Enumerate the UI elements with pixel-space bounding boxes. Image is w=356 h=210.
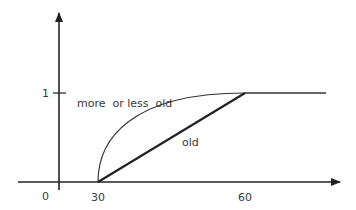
origin-label: 0 <box>42 190 49 203</box>
membership-function-chart: 1 0 30 60 more or less old old <box>0 0 356 210</box>
label-old: old <box>182 136 199 149</box>
x-tick-label-30: 30 <box>91 191 105 204</box>
x-tick-label-60: 60 <box>238 191 252 204</box>
y-tick-label-1: 1 <box>42 87 49 100</box>
label-more-or-less-old: more or less old <box>77 97 172 110</box>
